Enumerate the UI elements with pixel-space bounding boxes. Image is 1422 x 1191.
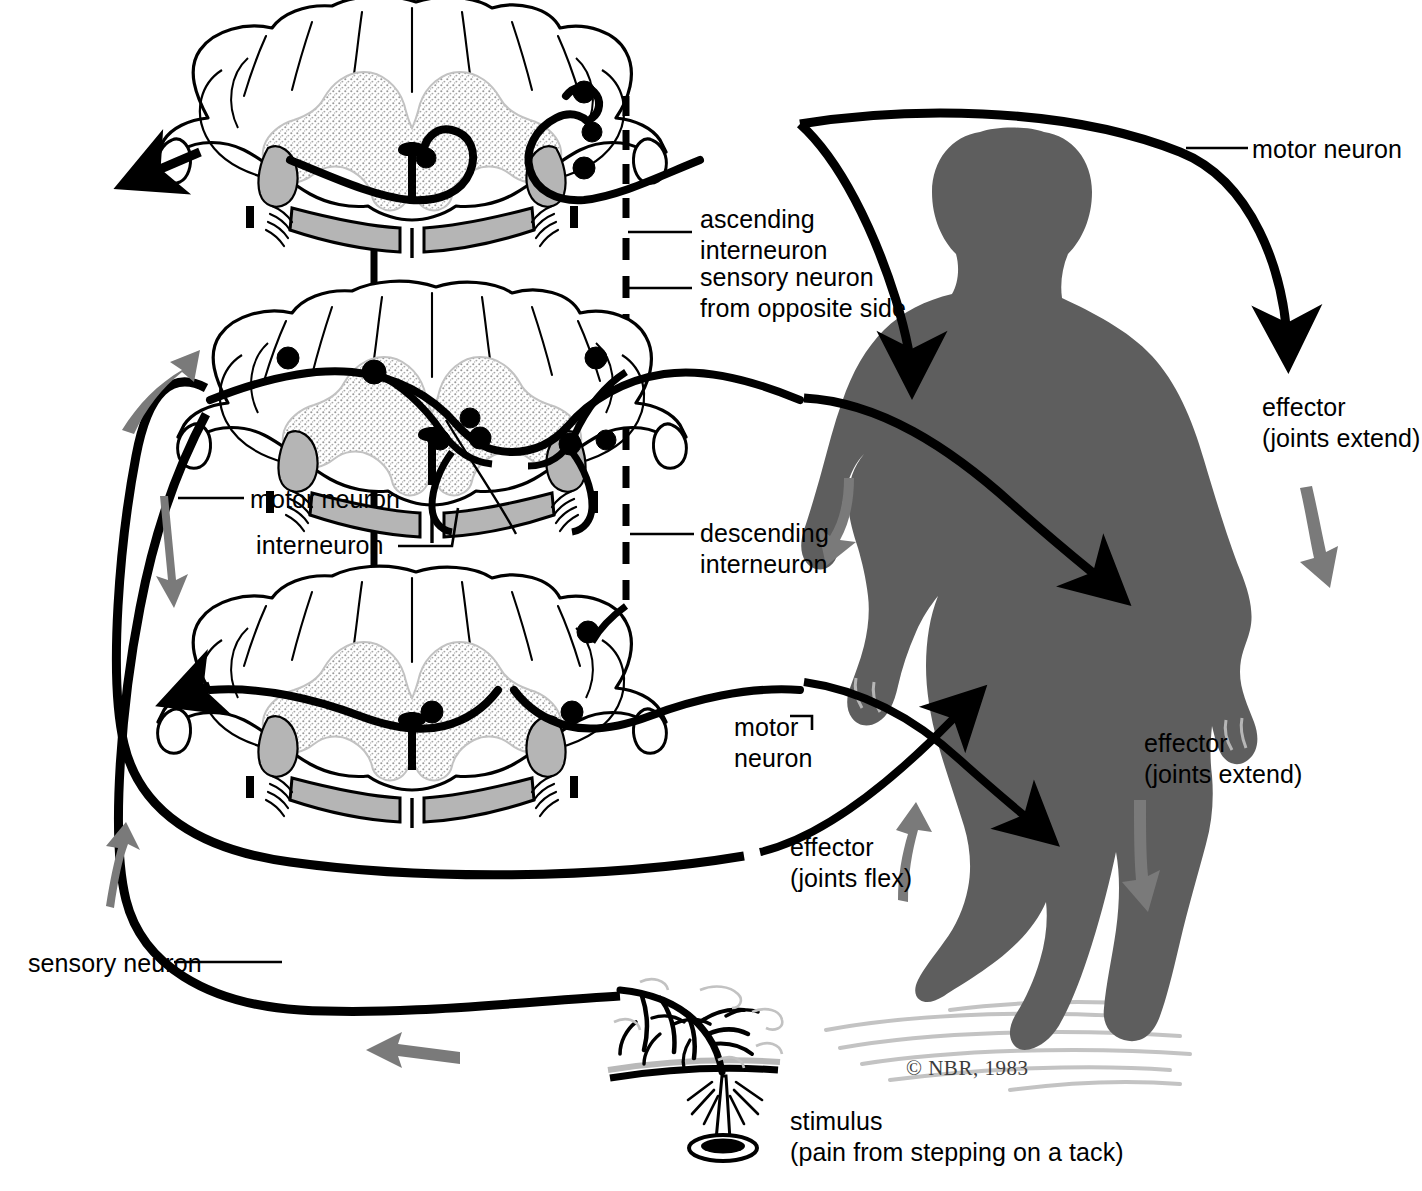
label-motor-neuron-mid: motor neuron bbox=[734, 712, 812, 774]
label-ascending-interneuron: ascending interneuron bbox=[700, 204, 828, 266]
label-motor-neuron-left: motor neuron bbox=[250, 484, 400, 515]
label-interneuron: interneuron bbox=[256, 530, 384, 561]
label-sensory-neuron: sensory neuron bbox=[28, 948, 202, 979]
flow-arrow-arm-down bbox=[1300, 486, 1338, 588]
label-effector-joints-flex: effector (joints flex) bbox=[790, 832, 912, 894]
diagram-canvas bbox=[0, 0, 1422, 1191]
label-effector-joints-extend-upper: effector (joints extend) bbox=[1262, 392, 1421, 454]
stimulus-skin-and-tack bbox=[608, 979, 782, 1161]
flow-arrow-left-bottom bbox=[366, 1032, 460, 1068]
copyright-notice: © NBR, 1983 bbox=[906, 1056, 1028, 1081]
label-effector-joints-extend-lower: effector (joints extend) bbox=[1144, 728, 1303, 790]
label-motor-neuron-top-right: motor neuron bbox=[1252, 134, 1402, 165]
label-descending-interneuron: descending interneuron bbox=[700, 518, 829, 580]
label-stimulus: stimulus (pain from stepping on a tack) bbox=[790, 1106, 1124, 1168]
label-sensory-neuron-opposite-side: sensory neuron from opposite side bbox=[700, 262, 906, 324]
spinal-cord-section-lower bbox=[158, 566, 667, 828]
